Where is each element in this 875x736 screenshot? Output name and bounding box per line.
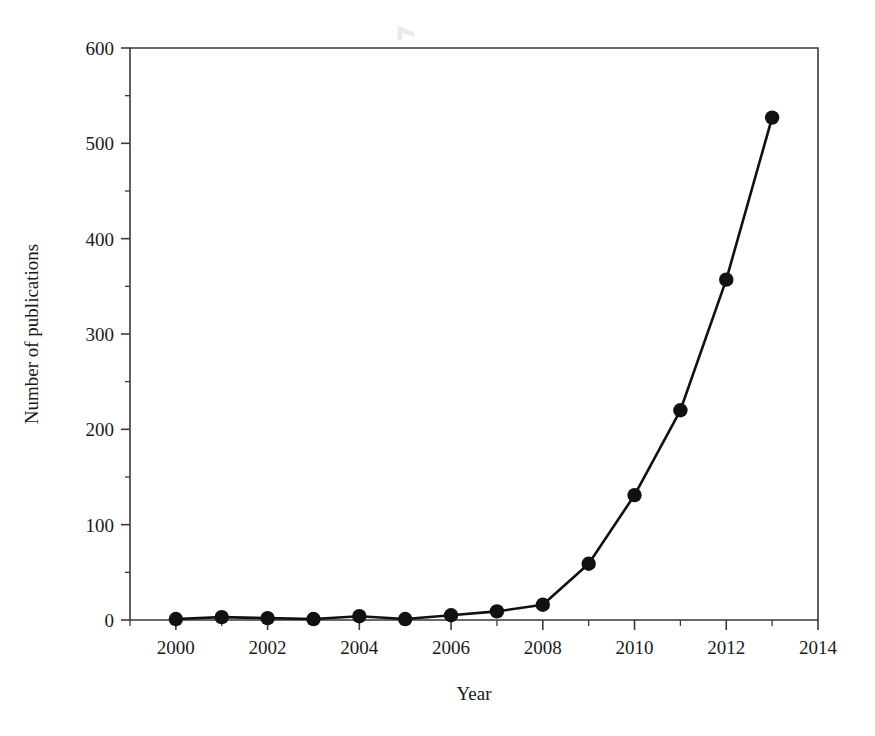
publications-per-year-line-chart: 0100200300400500600 20002002200420062008… <box>0 0 875 736</box>
x-tick-label: 2014 <box>799 637 838 658</box>
data-point-2009 <box>581 557 595 571</box>
data-point-2004 <box>352 609 366 623</box>
chart-background <box>0 0 875 736</box>
x-tick-label: 2004 <box>340 637 379 658</box>
data-point-2012 <box>719 272 733 286</box>
data-point-2013 <box>765 110 779 124</box>
data-point-2005 <box>398 612 412 626</box>
y-axis-title: Number of publications <box>21 244 42 424</box>
data-point-2006 <box>444 608 458 622</box>
y-tick-label: 400 <box>86 229 115 250</box>
x-tick-label: 2000 <box>157 637 195 658</box>
data-point-2010 <box>627 488 641 502</box>
data-point-2000 <box>169 612 183 626</box>
x-tick-label: 2002 <box>249 637 287 658</box>
x-tick-label: 2010 <box>616 637 654 658</box>
y-tick-label: 500 <box>86 133 115 154</box>
data-point-2011 <box>673 403 687 417</box>
data-point-2003 <box>306 612 320 626</box>
y-tick-label: 300 <box>86 324 115 345</box>
x-axis-title: Year <box>456 683 492 704</box>
y-tick-label: 100 <box>86 515 115 536</box>
y-tick-label: 200 <box>86 419 115 440</box>
y-tick-label: 600 <box>86 38 115 59</box>
data-point-2007 <box>490 604 504 618</box>
data-point-2001 <box>215 610 229 624</box>
data-point-2008 <box>536 598 550 612</box>
data-point-2002 <box>260 611 274 625</box>
x-tick-label: 2006 <box>432 637 470 658</box>
x-tick-label: 2012 <box>707 637 745 658</box>
y-tick-label: 0 <box>105 610 115 631</box>
x-tick-label: 2008 <box>524 637 562 658</box>
